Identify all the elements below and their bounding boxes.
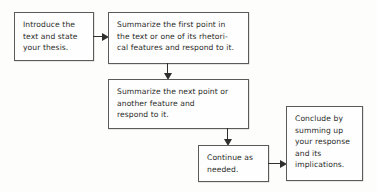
summarize-next-line-1: Summarize the next point or: [117, 86, 241, 98]
flowchart-canvas: Introduce the text and state your thesis…: [0, 0, 377, 192]
arrow-continue-to-conclude: [268, 157, 287, 170]
continue-line-1: Continue as: [207, 152, 261, 164]
conclude-box: Conclude by summing up your response and…: [286, 106, 363, 181]
summarize-next-line-3: respond to it.: [117, 109, 241, 121]
introduce-box-line-3: your thesis.: [23, 42, 86, 54]
arrow-summarize-next-to-continue: [221, 128, 234, 146]
arrow-introduce-to-summarize-first: [93, 30, 109, 43]
summarize-first-line-3: cal features and respond to it.: [117, 42, 241, 54]
summarize-first-line-2: the text or one of its rhetori-: [117, 31, 241, 43]
summarize-next-point-box: Summarize the next point or another feat…: [108, 79, 249, 129]
arrow-summarize-first-to-summarize-next: [161, 63, 174, 80]
continue-line-2: needed.: [207, 164, 261, 176]
summarize-first-point-box: Summarize the first point in the text or…: [108, 12, 249, 64]
conclude-line-1: Conclude by: [295, 113, 355, 125]
conclude-line-3: your response: [295, 136, 355, 148]
continue-as-needed-box: Continue as needed.: [198, 145, 269, 182]
conclude-line-5: implications.: [295, 159, 355, 171]
introduce-box-line-2: text and state: [23, 31, 86, 43]
introduce-box: Introduce the text and state your thesis…: [14, 12, 94, 61]
conclude-line-2: summing up: [295, 125, 355, 137]
introduce-box-line-1: Introduce the: [23, 19, 86, 31]
summarize-first-line-1: Summarize the first point in: [117, 19, 241, 31]
summarize-next-line-2: another feature and: [117, 98, 241, 110]
conclude-line-4: and its: [295, 148, 355, 160]
